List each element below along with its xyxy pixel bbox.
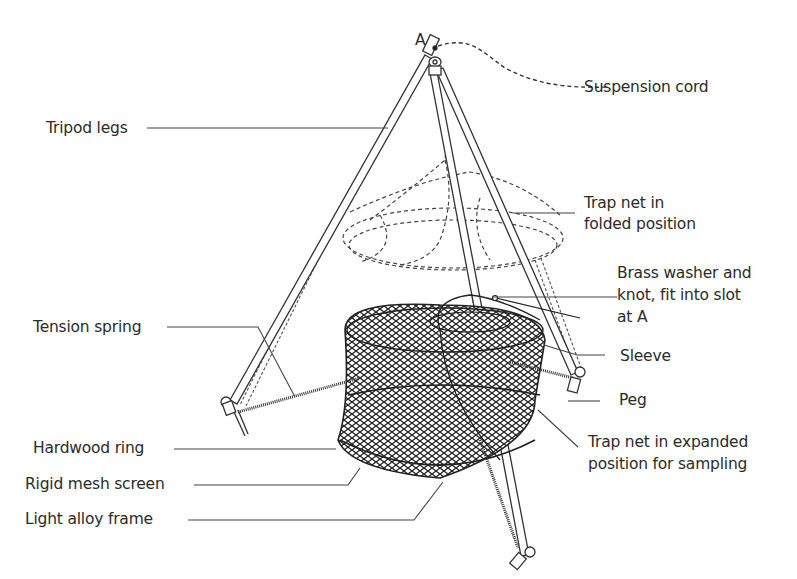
label-trap-net-folded-line2: folded position <box>584 214 696 234</box>
label-brass-washer-line2: knot, fit into slot <box>617 285 741 305</box>
suspension-cord <box>438 43 608 88</box>
label-brass-washer-line3: at A <box>617 307 647 327</box>
expanded-trap-net <box>338 295 580 478</box>
label-tripod-legs: Tripod legs <box>46 118 128 138</box>
point-marker-a: A <box>415 30 425 50</box>
label-trap-net-folded-line1: Trap net in <box>584 193 664 213</box>
label-sleeve: Sleeve <box>620 346 671 366</box>
label-trap-net-expanded-line1: Trap net in expanded <box>588 432 748 452</box>
label-tension-spring: Tension spring <box>33 317 141 337</box>
label-brass-washer-line1: Brass washer and <box>617 263 751 283</box>
label-peg: Peg <box>619 390 647 410</box>
label-trap-net-expanded-line2: position for sampling <box>588 454 747 474</box>
label-light-alloy-frame: Light alloy frame <box>25 509 153 529</box>
label-rigid-mesh-screen: Rigid mesh screen <box>25 474 165 494</box>
label-hardwood-ring: Hardwood ring <box>33 438 144 458</box>
label-suspension-cord: Suspension cord <box>584 77 709 97</box>
